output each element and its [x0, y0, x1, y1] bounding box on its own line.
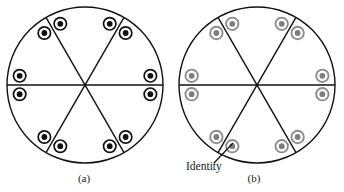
panel-a-caption: (a) [78, 172, 91, 185]
panel-a-marker-7 [37, 26, 51, 40]
marker-center-dot-icon [229, 21, 235, 27]
panel-a-marker-10 [119, 26, 133, 40]
identity-label: Identity [186, 160, 222, 173]
marker-center-dot-icon [279, 21, 285, 27]
marker-center-dot-icon [123, 134, 129, 140]
panel-a-marker-4 [37, 130, 51, 144]
panel-b-marker-2 [275, 139, 289, 153]
panel-b-marker-9 [275, 17, 289, 31]
panel-b-marker-8 [225, 17, 239, 31]
marker-center-dot-icon [57, 21, 63, 27]
panel-b-marker-1 [290, 130, 304, 144]
marker-center-dot-icon [17, 73, 23, 79]
marker-center-dot-icon [41, 30, 47, 36]
panel-b-marker-11 [315, 69, 329, 83]
panel-a-marker-3 [53, 139, 67, 153]
panel-b-marker-10 [290, 26, 304, 40]
marker-center-dot-icon [123, 30, 129, 36]
panel-a-marker-11 [143, 69, 157, 83]
panel-b-marker-4 [209, 130, 223, 144]
panel-b-caption: (b) [248, 172, 261, 185]
panel-b-marker-5 [184, 87, 198, 101]
panel-a-marker-6 [13, 69, 27, 83]
panel-a-marker-8 [53, 17, 67, 31]
marker-center-dot-icon [295, 30, 301, 36]
marker-center-dot-icon [41, 134, 47, 140]
marker-center-dot-icon [279, 143, 285, 149]
marker-center-dot-icon [147, 91, 153, 97]
marker-center-dot-icon [189, 91, 195, 97]
marker-center-dot-icon [189, 73, 195, 79]
panel-b-marker-7 [209, 26, 223, 40]
marker-center-dot-icon [319, 91, 325, 97]
panel-b-marker-6 [184, 69, 198, 83]
panel-a-marker-1 [119, 130, 133, 144]
marker-center-dot-icon [57, 143, 63, 149]
marker-center-dot-icon [295, 134, 301, 140]
figure-two-circular-diagrams: (a) Identity (b) [0, 0, 344, 192]
marker-center-dot-icon [107, 143, 113, 149]
marker-center-dot-icon [319, 73, 325, 79]
panel-a-marker-0 [143, 87, 157, 101]
panel-a-marker-9 [103, 17, 117, 31]
marker-center-dot-icon [17, 91, 23, 97]
marker-center-dot-icon [147, 73, 153, 79]
marker-center-dot-icon [213, 30, 219, 36]
marker-center-dot-icon [213, 134, 219, 140]
panel-b-marker-3 [225, 139, 239, 153]
panel-a-marker-5 [13, 87, 27, 101]
panel-b-marker-0 [315, 87, 329, 101]
panel-a-marker-2 [103, 139, 117, 153]
marker-center-dot-icon [107, 21, 113, 27]
